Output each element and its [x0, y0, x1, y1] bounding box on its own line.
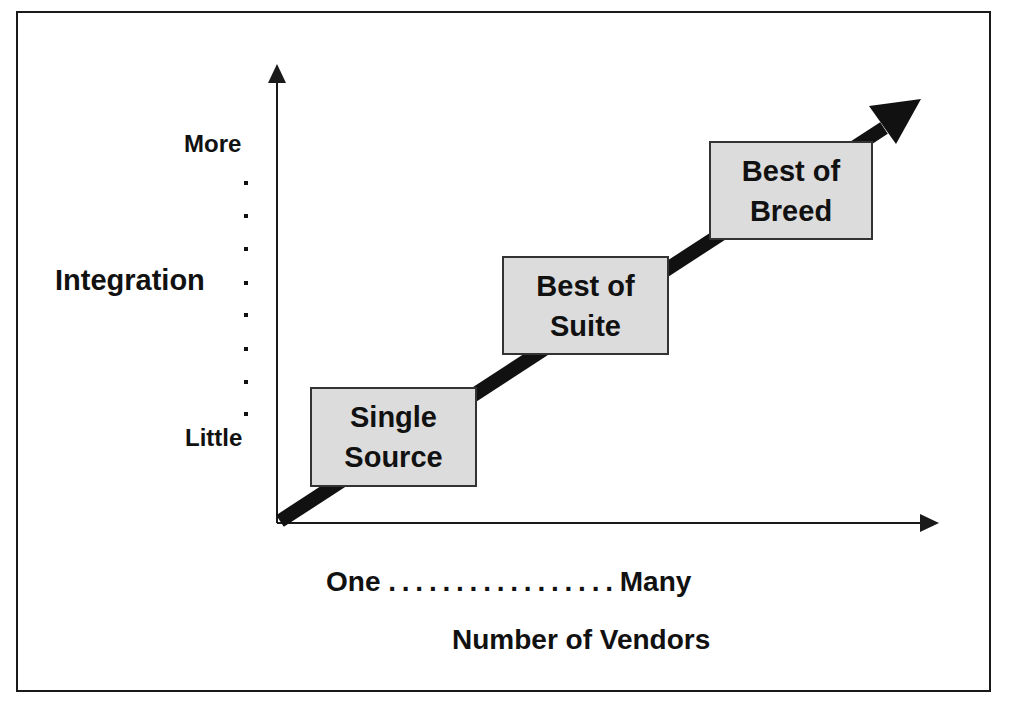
stage-label-line1: Best of — [536, 266, 634, 306]
y-axis-dot — [244, 214, 248, 218]
x-axis-right-label: Many — [620, 566, 692, 597]
y-axis-dot — [244, 281, 248, 285]
x-axis-arrowhead-icon — [920, 514, 939, 532]
y-axis-dot — [244, 380, 248, 384]
x-axis-dot-leader: . . . . . . . . . . . . . . . . . — [388, 566, 612, 597]
stage-box-single-source: Single Source — [310, 387, 477, 487]
x-axis-range-label: One . . . . . . . . . . . . . . . . . Ma… — [326, 566, 691, 598]
stage-label-line2: Source — [344, 437, 442, 477]
stage-label-line1: Single — [344, 397, 442, 437]
y-axis-arrowhead-icon — [268, 64, 286, 83]
y-axis-dot — [244, 412, 248, 416]
y-axis-dot — [244, 247, 248, 251]
stage-label-line2: Breed — [742, 191, 840, 231]
y-axis-bottom-label: Little — [185, 424, 242, 452]
y-axis-dot — [244, 347, 248, 351]
stage-label-line2: Suite — [536, 306, 634, 346]
x-axis-title: Number of Vendors — [452, 624, 710, 656]
x-axis-left-label: One — [326, 566, 380, 597]
stage-label-line1: Best of — [742, 151, 840, 191]
y-axis-title: Integration — [55, 264, 205, 297]
stage-box-best-of-suite: Best of Suite — [502, 256, 669, 355]
y-axis-dot — [244, 181, 248, 185]
y-axis-dot — [244, 313, 248, 317]
stage-box-best-of-breed: Best of Breed — [709, 141, 873, 240]
y-axis-top-label: More — [184, 130, 241, 158]
